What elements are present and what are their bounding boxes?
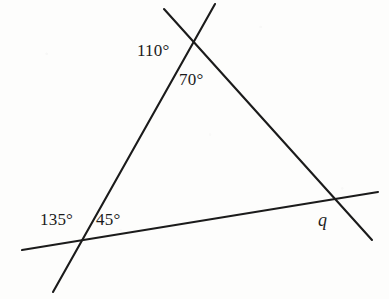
angle-label-70: 70° (179, 71, 203, 88)
unknown-angle-label-q: q (318, 211, 327, 229)
left-transversal-line (53, 4, 215, 292)
right-transversal-line (164, 9, 372, 240)
geometry-figure: 110° 70° 135° 45° q (0, 0, 389, 299)
line-group (22, 4, 378, 292)
angle-label-135: 135° (40, 211, 73, 228)
diagram-canvas (0, 0, 389, 299)
angle-label-45: 45° (96, 211, 120, 228)
angle-label-110: 110° (137, 42, 169, 59)
